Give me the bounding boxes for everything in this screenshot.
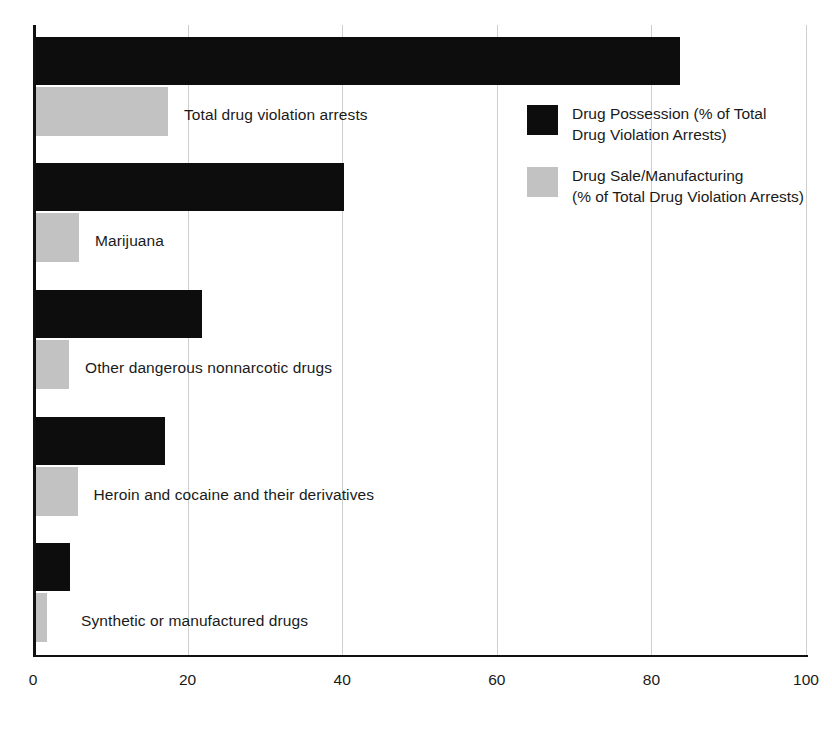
bar-chart: Total drug violation arrestsMarijuanaOth… (0, 0, 832, 731)
x-tick-label: 60 (488, 671, 505, 689)
x-tick-label: 100 (793, 671, 819, 689)
category-label: Synthetic or manufactured drugs (81, 612, 308, 630)
bar-drug-possession (35, 543, 70, 591)
x-tick-label: 40 (334, 671, 351, 689)
category-label: Heroin and cocaine and their derivatives (94, 486, 375, 504)
bar-drug-sale-manufacturing (35, 467, 78, 516)
legend-label: Drug Possession (% of Total Drug Violati… (572, 103, 817, 145)
gridline (497, 25, 498, 655)
x-tick-label: 20 (179, 671, 196, 689)
x-axis-line (33, 655, 808, 657)
category-label: Other dangerous nonnarcotic drugs (85, 359, 332, 377)
bar-drug-possession (35, 290, 202, 338)
bar-drug-possession (35, 37, 680, 85)
bar-drug-sale-manufacturing (35, 593, 47, 642)
legend-label: Drug Sale/Manufacturing (% of Total Drug… (572, 165, 817, 207)
legend-item[interactable]: Drug Sale/Manufacturing (% of Total Drug… (527, 165, 817, 207)
bar-drug-possession (35, 163, 344, 211)
bar-drug-sale-manufacturing (35, 213, 79, 262)
x-tick-label: 80 (643, 671, 660, 689)
legend-swatch-icon (527, 167, 558, 197)
category-label: Marijuana (95, 232, 164, 250)
bar-drug-sale-manufacturing (35, 340, 69, 389)
x-tick-label: 0 (29, 671, 38, 689)
bar-drug-possession (35, 417, 165, 465)
category-label: Total drug violation arrests (184, 106, 368, 124)
legend-item[interactable]: Drug Possession (% of Total Drug Violati… (527, 103, 817, 145)
y-axis-line (33, 25, 36, 657)
legend: Drug Possession (% of Total Drug Violati… (527, 103, 817, 227)
legend-swatch-icon (527, 105, 558, 135)
bar-drug-sale-manufacturing (35, 87, 168, 136)
